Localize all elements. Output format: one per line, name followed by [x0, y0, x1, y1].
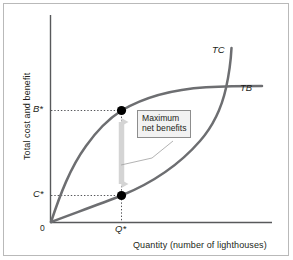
figure-container: Total cost and benefit Quantity (number …	[0, 0, 293, 260]
callout-leader-line	[121, 141, 173, 165]
tb-curve-label: TB	[240, 83, 252, 94]
callout-line-2: net benefits	[142, 123, 186, 133]
c-star-marker	[117, 191, 126, 200]
maximum-net-benefits-callout: Maximum net benefits	[137, 110, 191, 138]
b-star-marker	[117, 106, 126, 115]
x-tick-label-q-star: Q*	[115, 224, 126, 235]
y-tick-label-b-star: B*	[33, 104, 43, 115]
tc-curve-label: TC	[212, 45, 225, 56]
x-axis-title: Quantity (number of lighthouses)	[133, 240, 267, 250]
origin-label: 0	[40, 224, 45, 234]
y-axis-title: Total cost and benefit	[22, 73, 32, 160]
callout-line-1: Maximum	[142, 113, 186, 123]
y-tick-label-c-star: C*	[33, 189, 44, 200]
